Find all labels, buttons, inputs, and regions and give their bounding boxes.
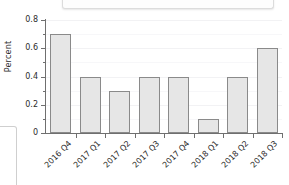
x-tick-label: 2017 Q1 (71, 139, 103, 171)
x-tick-mark (76, 134, 77, 138)
x-tick-label: 2018 Q2 (218, 139, 250, 171)
x-tick-mark (194, 134, 195, 138)
y-tick-label: 0.4 (25, 73, 38, 81)
x-tick-label: 2017 Q3 (130, 139, 162, 171)
y-tick-mark-minor (43, 119, 46, 120)
x-tick-label: 2017 Q2 (100, 139, 132, 171)
x-tick-mark (223, 134, 224, 138)
x-tick-mark (282, 134, 283, 138)
bar (109, 91, 130, 133)
x-tick-label: 2017 Q4 (159, 139, 191, 171)
y-tick-mark-minor (43, 91, 46, 92)
y-tick-mark (41, 48, 46, 49)
y-tick-mark-minor (43, 62, 46, 63)
x-tick-mark (135, 134, 136, 138)
y-tick-mark (41, 133, 46, 134)
bar-chart: Percent 00.20.40.60.8 2016 Q42017 Q12017… (0, 0, 289, 185)
y-tick-label: 0 (33, 129, 38, 137)
bar (168, 77, 189, 134)
bar (198, 119, 219, 133)
x-tick-mark (164, 134, 165, 138)
y-axis-title: Percent (4, 27, 13, 87)
bar (227, 77, 248, 134)
bar (50, 34, 71, 133)
bar (80, 77, 101, 134)
bar (139, 77, 160, 134)
y-tick-label: 0.2 (25, 101, 38, 109)
gridline-minor (46, 34, 282, 35)
gridline (46, 20, 282, 21)
gridline (46, 48, 282, 49)
y-tick-mark-minor (43, 34, 46, 35)
y-tick-mark (41, 20, 46, 21)
y-tick-label: 0.6 (25, 44, 38, 52)
x-tick-mark (105, 134, 106, 138)
y-tick-mark (41, 77, 46, 78)
x-tick-mark (253, 134, 254, 138)
y-tick-label: 0.8 (25, 16, 38, 24)
x-tick-label: 2018 Q3 (248, 139, 280, 171)
x-tick-label: 2016 Q4 (41, 139, 73, 171)
bar (257, 48, 278, 133)
gridline-minor (46, 62, 282, 63)
y-tick-mark (41, 105, 46, 106)
x-tick-label: 2018 Q1 (189, 139, 221, 171)
